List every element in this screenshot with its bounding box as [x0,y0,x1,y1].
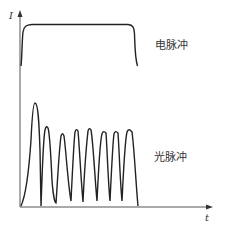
electric-pulse-curve [21,25,138,67]
y-axis-label: I [9,10,13,21]
electric-pulse-label: 电脉冲 [155,36,188,52]
y-axis-arrow-icon [18,10,23,17]
light-pulse-label: 光脉冲 [154,148,187,164]
x-axis-arrow-icon [206,205,213,210]
light-pulse-curve [21,103,138,206]
x-axis-label: t [205,212,209,223]
pulse-diagram [0,0,225,228]
